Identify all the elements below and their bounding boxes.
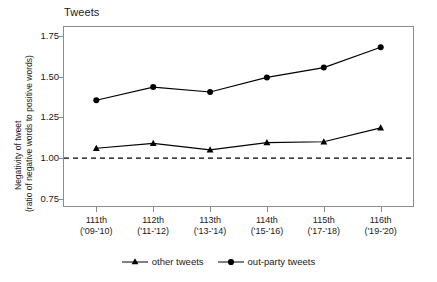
legend-label-other-tweets: other tweets	[152, 256, 204, 267]
x-tick-mark	[324, 207, 325, 212]
legend-label-out-party-tweets: out-party tweets	[248, 256, 316, 267]
x-tick-label-congress: 116th	[370, 215, 392, 225]
y-tick-label-text: 1.00	[33, 153, 59, 163]
y-tick-mark	[59, 77, 64, 78]
x-tick-label: 116th('19-'20)	[346, 215, 416, 237]
x-tick-label-congress: 111th	[86, 215, 107, 225]
x-tick-mark	[267, 207, 268, 212]
x-tick-mark	[381, 207, 382, 212]
y-tick-mark	[59, 199, 64, 200]
x-tick-label-congress: 115th	[313, 215, 335, 225]
y-tick-label-text: 1.25	[33, 112, 59, 122]
x-tick-label-congress: 114th	[256, 215, 278, 225]
chart-figure: Tweets Negativity of tweet (ratio of neg…	[0, 0, 437, 282]
y-tick-label: 1.25	[33, 112, 59, 122]
legend-item-out-party-tweets[interactable]: out-party tweets	[218, 256, 316, 267]
plot-area	[63, 26, 414, 207]
y-tick-label-text: 1.75	[33, 31, 59, 41]
chart-legend: other tweets out-party tweets	[0, 256, 437, 267]
legend-item-other-tweets[interactable]: other tweets	[122, 256, 204, 267]
x-tick-mark	[96, 207, 97, 212]
y-axis-title-line1: Negativity of tweet	[13, 20, 23, 190]
y-tick-mark	[59, 36, 64, 37]
x-tick-label-years: ('19-'20)	[346, 226, 416, 237]
circle-marker-icon	[218, 257, 244, 267]
y-tick-label-text: 0.75	[33, 194, 59, 204]
y-tick-mark	[59, 117, 64, 118]
x-tick-label-congress: 112th	[142, 215, 164, 225]
y-tick-mark	[59, 158, 64, 159]
x-tick-label-congress: 113th	[199, 215, 221, 225]
y-tick-label: 1.75	[33, 31, 59, 41]
triangle-marker-icon	[122, 257, 148, 267]
y-tick-label: 0.75	[33, 194, 59, 204]
x-tick-mark	[210, 207, 211, 212]
chart-title: Tweets	[64, 6, 99, 19]
y-tick-label-text: 1.50	[33, 72, 59, 82]
x-tick-mark	[153, 207, 154, 212]
y-tick-label: 1.50	[33, 72, 59, 82]
y-tick-label: 1.00	[33, 153, 59, 163]
